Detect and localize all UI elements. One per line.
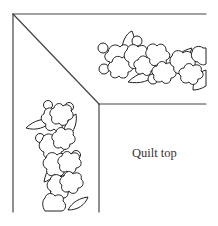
side-floral-vine bbox=[26, 101, 88, 212]
quilt-border-diagram: Quilt top bbox=[0, 0, 218, 226]
miter-seam bbox=[13, 14, 99, 104]
top-floral-vine bbox=[98, 31, 206, 90]
quilt-top-label: Quilt top bbox=[132, 146, 177, 161]
